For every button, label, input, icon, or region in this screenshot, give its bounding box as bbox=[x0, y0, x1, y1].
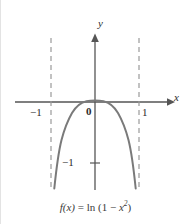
caption-equals: = bbox=[75, 201, 87, 213]
caption-function-name: f(x) bbox=[60, 201, 75, 213]
figure-caption: f(x) = ln (1 − x2) bbox=[1, 200, 189, 213]
caption-close-paren: ) bbox=[128, 201, 132, 213]
x-tick-label-pos1: 1 bbox=[142, 107, 148, 118]
y-axis-label: y bbox=[98, 18, 103, 29]
function-graph-figure: y x −1 1 −1 0 f(x) = ln (1 − x2) bbox=[0, 0, 189, 224]
y-tick-label-neg1: −1 bbox=[62, 157, 74, 168]
x-axis-label: x bbox=[174, 92, 179, 103]
y-axis bbox=[91, 34, 99, 191]
y-axis-arrowhead bbox=[91, 34, 99, 43]
caption-ln: ln bbox=[87, 201, 96, 213]
origin-label: 0 bbox=[86, 106, 92, 117]
x-tick-label-neg1: −1 bbox=[30, 107, 42, 118]
caption-open-paren: (1 − bbox=[95, 201, 119, 213]
